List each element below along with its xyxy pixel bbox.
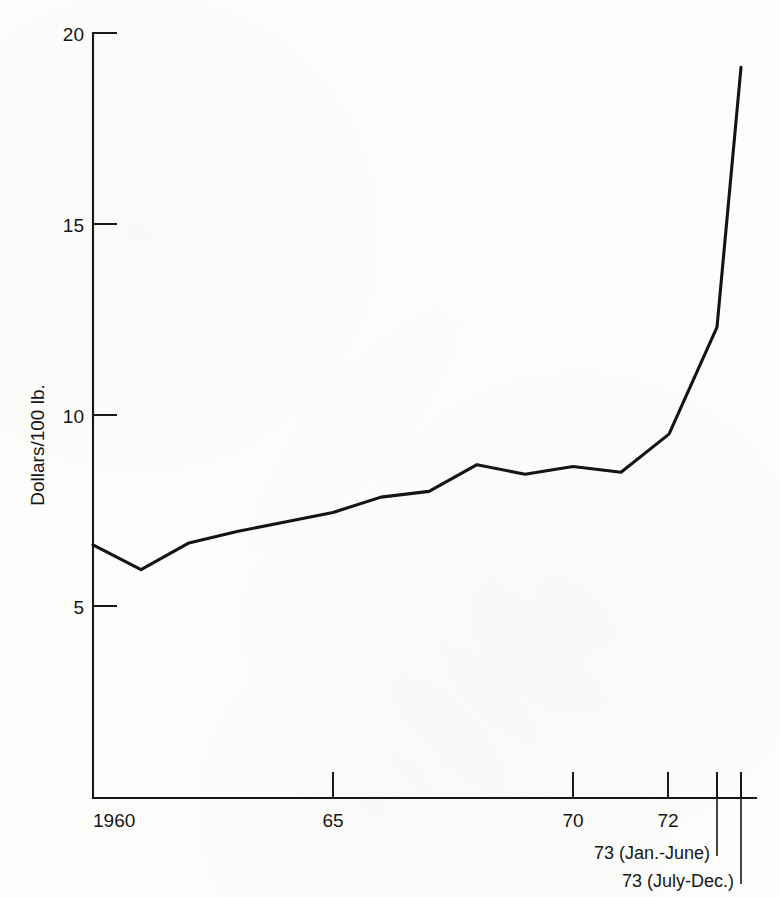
- annotation-jan-june-1973: 73 (Jan.-June): [594, 843, 710, 863]
- annotation-july-dec-1973: 73 (July-Dec.): [622, 871, 734, 891]
- y-tick-label-15: 15: [63, 215, 84, 236]
- data-series-line: [93, 67, 741, 569]
- running-head: 72 OUR DEPLETING RESOURCES: [0, 0, 780, 14]
- y-axis-title: Dollars/100 lb.: [27, 384, 48, 505]
- x-tick-label-1970: 70: [562, 810, 583, 831]
- x-tick-label-1972: 72: [657, 810, 678, 831]
- x-tick-label-1965: 65: [322, 810, 343, 831]
- y-tick-label-5: 5: [73, 597, 84, 618]
- chart-svg: 20 15 10 5 Dollars/100 lb. 1960 65 70 72…: [0, 0, 780, 897]
- line-chart: 20 15 10 5 Dollars/100 lb. 1960 65 70 72…: [0, 0, 780, 897]
- y-tick-label-10: 10: [63, 406, 84, 427]
- x-tick-label-1960: 1960: [93, 810, 135, 831]
- y-tick-label-20: 20: [63, 24, 84, 45]
